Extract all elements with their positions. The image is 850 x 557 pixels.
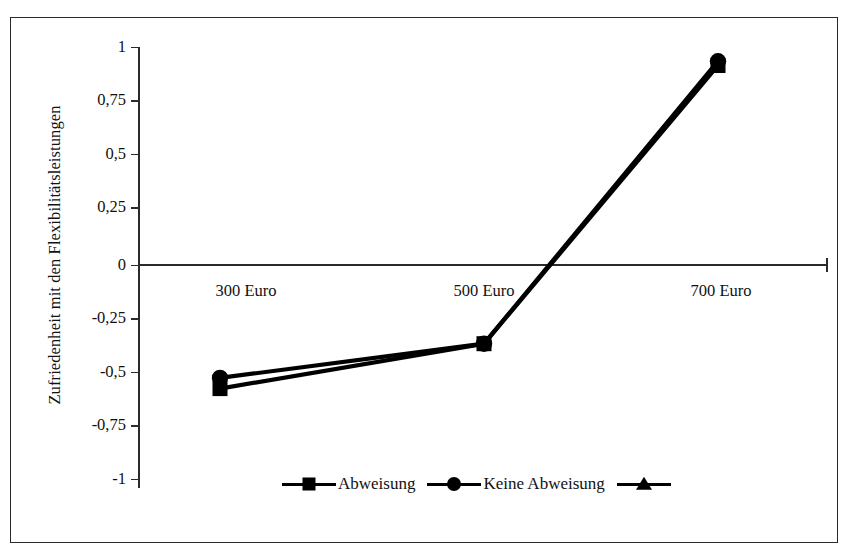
y-tick-label: -1 xyxy=(62,470,126,488)
legend-entry-abweisung: Abweisung xyxy=(282,474,417,494)
chart-legend: Abweisung Keine Abweisung xyxy=(282,472,685,496)
x-category-label: 300 Euro xyxy=(166,281,326,301)
legend-label: Keine Abweisung xyxy=(481,474,606,494)
y-tick-label-text: 1 xyxy=(66,38,126,56)
legend-label: Abweisung xyxy=(336,474,417,494)
x-category-label: 500 Euro xyxy=(404,281,564,301)
data-point-marker-circle xyxy=(476,336,492,352)
y-tick-label: 0,75 xyxy=(62,91,126,109)
x-category-label: 700 Euro xyxy=(641,281,801,301)
square-marker-icon xyxy=(303,478,316,491)
data-point-marker-square xyxy=(213,381,228,396)
y-tick-mark xyxy=(131,372,139,374)
circle-marker-icon xyxy=(447,477,461,491)
y-tick-label-text: -1 xyxy=(66,470,126,488)
data-point-marker-circle xyxy=(212,370,228,386)
y-tick-mark xyxy=(131,154,139,156)
y-tick-label-text: 0 xyxy=(66,256,126,274)
y-tick-mark xyxy=(131,207,139,209)
y-tick-label: -0,5 xyxy=(62,363,126,381)
y-tick-label-text: -0,5 xyxy=(66,363,126,381)
y-tick-label: 0,5 xyxy=(62,145,126,163)
y-tick-mark xyxy=(131,318,139,320)
series-line-abweisung xyxy=(220,66,718,389)
legend-key-circle xyxy=(427,474,481,494)
y-tick-label: 0 xyxy=(62,256,126,274)
chart-screenshot: Zufriedenheit mit den Flexibilitätsleist… xyxy=(0,0,850,557)
y-tick-label: 0,25 xyxy=(62,198,126,216)
legend-key-triangle xyxy=(617,474,671,494)
data-point-marker-circle xyxy=(710,53,726,69)
y-tick-mark xyxy=(131,100,139,102)
y-tick-mark xyxy=(131,425,139,427)
y-tick-mark xyxy=(131,479,139,481)
legend-entry-unlabeled xyxy=(617,474,675,494)
x-axis-end-tick xyxy=(826,258,828,272)
y-tick-label: -0,25 xyxy=(62,309,126,327)
y-tick-label: -0,75 xyxy=(62,416,126,434)
y-tick-label-text: 0,5 xyxy=(66,145,126,163)
y-tick-mark xyxy=(131,47,139,49)
series-line-keine-abweisung xyxy=(220,61,718,378)
y-axis-line xyxy=(138,47,140,488)
data-point-marker-square xyxy=(711,58,726,73)
zero-baseline xyxy=(138,264,828,266)
legend-entry-keine-abweisung: Keine Abweisung xyxy=(427,474,606,494)
chart-plot-area: Zufriedenheit mit den Flexibilitätsleist… xyxy=(0,0,850,557)
y-tick-label: 1 xyxy=(62,38,126,56)
legend-key-square xyxy=(282,474,336,494)
y-tick-label-text: -0,25 xyxy=(66,309,126,327)
y-tick-label-text: 0,25 xyxy=(66,198,126,216)
y-tick-label-text: -0,75 xyxy=(66,416,126,434)
y-tick-label-text: 0,75 xyxy=(66,91,126,109)
data-point-marker-square xyxy=(477,336,492,351)
triangle-marker-icon xyxy=(636,477,652,490)
